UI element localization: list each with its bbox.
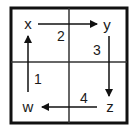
node-y: y [103, 17, 111, 32]
edge-label-3: 3 [93, 43, 101, 57]
node-w: w [23, 99, 34, 114]
diagram-canvas [0, 0, 135, 132]
edge-label-2: 2 [57, 29, 65, 43]
node-x: x [24, 16, 32, 31]
edge-label-1: 1 [34, 72, 42, 86]
cycle-diagram: x y z w 2 3 4 1 [0, 0, 135, 132]
edge-label-4: 4 [80, 91, 88, 105]
node-z: z [106, 99, 114, 114]
